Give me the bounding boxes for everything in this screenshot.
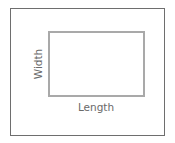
inner-rectangle xyxy=(48,31,145,97)
length-label: Length xyxy=(78,101,114,113)
width-label: Width xyxy=(32,49,44,80)
